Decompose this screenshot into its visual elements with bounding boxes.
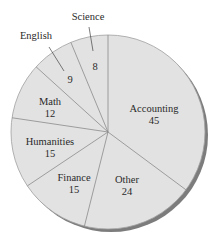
slice-label-math: Math 12 [39, 96, 61, 120]
slice-value: 9 [67, 74, 72, 86]
slice-value: 45 [130, 115, 179, 127]
slice-name: Science [72, 11, 105, 23]
slice-value: 24 [115, 186, 139, 198]
slice-name: Accounting [130, 103, 179, 115]
slice-value: 15 [57, 184, 90, 196]
slice-label-english-value: 9 [67, 74, 72, 86]
slice-label-accounting: Accounting 45 [130, 103, 179, 127]
slice-value: 8 [92, 61, 97, 73]
slice-label-other: Other 24 [115, 174, 139, 198]
slice-label-humanities: Humanities 15 [26, 136, 74, 160]
slice-label-science-value: 8 [92, 61, 97, 73]
slice-name: English [20, 30, 52, 42]
slice-label-english-name: English [20, 30, 52, 42]
slice-value: 12 [39, 108, 61, 120]
slice-label-science-name: Science [72, 11, 105, 23]
slice-name: Humanities [26, 136, 74, 148]
slice-name: Finance [57, 172, 90, 184]
slice-value: 15 [26, 148, 74, 160]
slice-name: Other [115, 174, 139, 186]
slice-name: Math [39, 96, 61, 108]
slice-label-finance: Finance 15 [57, 172, 90, 196]
